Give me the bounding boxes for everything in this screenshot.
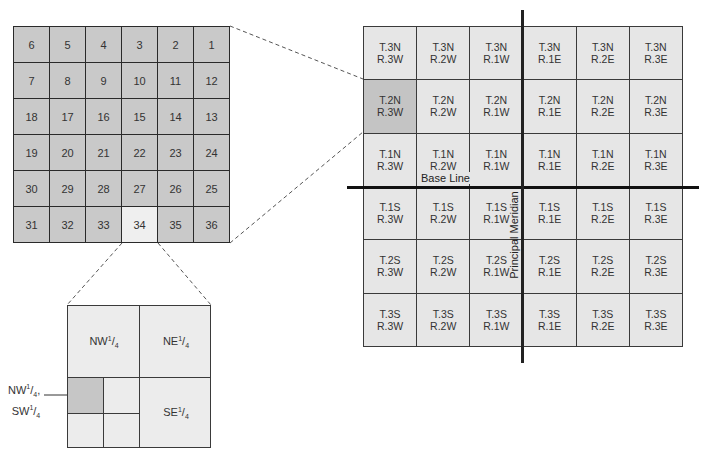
township-label: T.2N — [539, 94, 561, 106]
range-label: R.3W — [377, 213, 403, 225]
zoom-connector-bottom — [230, 132, 363, 243]
township-cell: T.3SR.3W — [364, 294, 416, 346]
range-label: R.2E — [591, 320, 614, 332]
township-label: T.2S — [380, 254, 401, 266]
section-cell: 19 — [14, 135, 49, 170]
section-cell: 3 — [122, 27, 157, 62]
range-label: R.3W — [377, 266, 403, 278]
range-label: R.3E — [644, 160, 667, 172]
range-label: R.3E — [644, 53, 667, 65]
section-cell: 30 — [14, 171, 49, 206]
range-label: R.3W — [377, 106, 403, 118]
section-cell: 11 — [158, 63, 193, 98]
range-label: R.2E — [591, 160, 614, 172]
section-cell: 22 — [122, 135, 157, 170]
township-label: T.1S — [380, 201, 401, 213]
section-cell: 35 — [158, 207, 193, 242]
section-cell: 16 — [86, 99, 121, 134]
section-cell: 36 — [194, 207, 229, 242]
base-line-label: Base Line — [419, 172, 472, 184]
range-label: R.3W — [377, 160, 403, 172]
township-cell: T.2NR.2W — [417, 80, 469, 132]
zoom-connector-top — [230, 26, 363, 79]
township-cell: T.2NR.3E — [630, 80, 682, 132]
section-cell: 24 — [194, 135, 229, 170]
section-cell: 4 — [86, 27, 121, 62]
township-cell: T.3SR.1W — [470, 294, 522, 346]
range-label: R.1W — [483, 266, 509, 278]
township-label: T.1N — [432, 148, 454, 160]
section-cell: 7 — [14, 63, 49, 98]
nw-sw-quarter-callout: NW1/4, SW1/4 — [8, 380, 40, 422]
range-label: R.2E — [591, 213, 614, 225]
section-cell: 1 — [194, 27, 229, 62]
range-label: R.1E — [538, 213, 561, 225]
range-label: R.2E — [591, 53, 614, 65]
section-cell: 27 — [122, 171, 157, 206]
range-label: R.1E — [538, 266, 561, 278]
section-cell: 32 — [50, 207, 85, 242]
nw-quarter-of-sw-quarter-shaded — [68, 377, 104, 413]
township-label: T.1S — [433, 201, 454, 213]
township-cell: T.3SR.2E — [577, 294, 629, 346]
ne-quarter-label: NE1/4 — [163, 335, 189, 350]
township-cell: T.3NR.2E — [577, 27, 629, 79]
township-label: T.2N — [486, 94, 508, 106]
horizontal-half-line — [68, 377, 210, 378]
township-cell: T.3SR.2W — [417, 294, 469, 346]
section-cell: 29 — [50, 171, 85, 206]
range-label: R.1E — [538, 106, 561, 118]
section-cell: 28 — [86, 171, 121, 206]
township-label: T.2S — [645, 254, 666, 266]
range-label: R.1W — [483, 53, 509, 65]
township-label: T.3S — [645, 308, 666, 320]
section-connector-right — [158, 243, 211, 305]
township-label: T.2N — [432, 94, 454, 106]
section-cell: 9 — [86, 63, 121, 98]
township-cell: T.2NR.3W — [364, 80, 416, 132]
township-label: T.3S — [592, 308, 613, 320]
township-label: T.3N — [592, 41, 614, 53]
township-cell: T.2SR.3E — [630, 240, 682, 292]
township-label: T.3S — [539, 308, 560, 320]
range-label: R.1E — [538, 320, 561, 332]
section-cell: 5 — [50, 27, 85, 62]
township-section-grid: 6543217891011121817161514131920212223243… — [13, 26, 230, 243]
township-label: T.3N — [486, 41, 508, 53]
section-cell: 31 — [14, 207, 49, 242]
township-cell: T.1NR.3E — [630, 134, 682, 186]
township-label: T.1N — [539, 148, 561, 160]
township-cell: T.1SR.3E — [630, 187, 682, 239]
township-cell: T.1SR.2E — [577, 187, 629, 239]
section-cell: 33 — [86, 207, 121, 242]
township-cell: T.3NR.3E — [630, 27, 682, 79]
township-label: T.3S — [380, 308, 401, 320]
township-label: T.2S — [539, 254, 560, 266]
township-cell: T.2SR.1E — [524, 240, 576, 292]
range-label: R.3E — [644, 266, 667, 278]
principal-meridian-line — [521, 10, 524, 363]
section-detail: NW1/4 NE1/4 SE1/4 — [67, 305, 211, 448]
range-label: R.1W — [483, 106, 509, 118]
township-label: T.1N — [645, 148, 667, 160]
township-label: T.1S — [539, 201, 560, 213]
range-label: R.2W — [430, 320, 456, 332]
nw-quarter-label: NW1/4 — [89, 335, 118, 350]
section-cell: 6 — [14, 27, 49, 62]
township-label: T.2S — [592, 254, 613, 266]
township-label: T.1S — [592, 201, 613, 213]
section-cell: 14 — [158, 99, 193, 134]
township-cell: T.3NR.3W — [364, 27, 416, 79]
township-label: T.1N — [592, 148, 614, 160]
township-label: T.2N — [645, 94, 667, 106]
section-cell: 10 — [122, 63, 157, 98]
township-label: T.3N — [539, 41, 561, 53]
section-cell: 15 — [122, 99, 157, 134]
range-label: R.1W — [483, 213, 509, 225]
township-label: T.3N — [645, 41, 667, 53]
range-label: R.2E — [591, 106, 614, 118]
township-cell: T.1NR.2E — [577, 134, 629, 186]
township-cell: T.1SR.3W — [364, 187, 416, 239]
township-label: T.2S — [486, 254, 507, 266]
range-label: R.3W — [377, 53, 403, 65]
